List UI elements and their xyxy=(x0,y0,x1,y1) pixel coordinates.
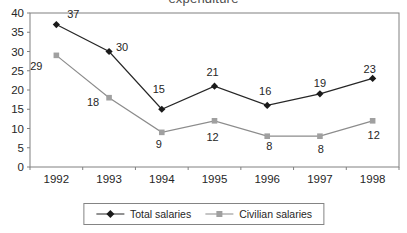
y-axis-label: 0 xyxy=(18,161,24,173)
data-label-total-salaries: 37 xyxy=(67,8,79,20)
data-point-marker-total-salaries xyxy=(53,21,60,28)
data-label-total-salaries: 30 xyxy=(116,41,128,53)
y-axis-label: 40 xyxy=(11,7,24,19)
chart-container: expenditure 0510152025303540199219931994… xyxy=(0,0,407,233)
x-axis-label: 1997 xyxy=(307,173,333,185)
legend-label-civilian-salaries: Civilian salaries xyxy=(239,208,312,220)
data-point-marker-total-salaries xyxy=(211,83,218,90)
legend-item-total-salaries: Total salaries xyxy=(95,208,191,220)
data-label-civilian-salaries: 8 xyxy=(318,143,324,155)
data-point-marker-civilian-salaries xyxy=(264,133,270,139)
line-chart-plot: 0510152025303540199219931994199519961997… xyxy=(0,0,407,200)
x-axis-label: 1998 xyxy=(360,173,386,185)
legend-item-civilian-salaries: Civilian salaries xyxy=(204,208,312,220)
data-label-civilian-salaries: 12 xyxy=(206,131,218,143)
legend-label-total-salaries: Total salaries xyxy=(130,208,191,220)
data-point-marker-civilian-salaries xyxy=(370,118,376,124)
y-axis-label: 20 xyxy=(11,84,24,96)
data-point-marker-civilian-salaries xyxy=(159,130,165,136)
data-point-marker-total-salaries xyxy=(369,75,376,82)
data-label-total-salaries: 15 xyxy=(153,83,165,95)
data-point-marker-total-salaries xyxy=(316,90,323,97)
legend: Total salaries Civilian salaries xyxy=(83,203,324,225)
data-point-marker-civilian-salaries xyxy=(106,95,112,101)
x-axis-label: 1994 xyxy=(149,173,175,185)
data-point-marker-civilian-salaries xyxy=(54,53,60,59)
y-axis-label: 25 xyxy=(11,65,24,77)
y-axis-label: 35 xyxy=(11,26,24,38)
civilian-salaries-marker-icon xyxy=(204,209,234,219)
data-label-total-salaries: 23 xyxy=(364,63,376,75)
y-axis-label: 5 xyxy=(18,142,24,154)
y-axis-label: 15 xyxy=(11,103,24,115)
data-label-civilian-salaries: 9 xyxy=(156,138,162,150)
data-point-marker-civilian-salaries xyxy=(317,133,323,139)
data-label-civilian-salaries: 29 xyxy=(30,60,42,72)
x-axis-label: 1993 xyxy=(96,173,122,185)
total-salaries-marker-icon xyxy=(95,209,125,219)
data-label-civilian-salaries: 12 xyxy=(368,129,380,141)
x-axis-label: 1995 xyxy=(202,173,228,185)
y-axis-label: 30 xyxy=(11,46,24,58)
data-point-marker-total-salaries xyxy=(264,102,271,109)
y-axis-label: 10 xyxy=(11,123,24,135)
x-axis-label: 1996 xyxy=(254,173,280,185)
data-point-marker-civilian-salaries xyxy=(212,118,218,124)
data-label-civilian-salaries: 8 xyxy=(266,140,272,152)
plot-border xyxy=(30,13,399,167)
data-label-total-salaries: 16 xyxy=(259,85,271,97)
data-label-total-salaries: 21 xyxy=(206,66,218,78)
data-label-total-salaries: 19 xyxy=(314,77,326,89)
data-label-civilian-salaries: 18 xyxy=(87,96,99,108)
x-axis-label: 1992 xyxy=(44,173,70,185)
